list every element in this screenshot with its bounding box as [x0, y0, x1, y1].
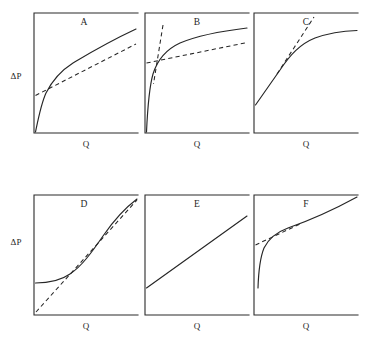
- six-panel-plot-figure: ΔP ΔP A Q B Q C Q D: [0, 0, 369, 352]
- plot-panel-d: D Q: [34, 195, 138, 331]
- panel-a-axes: [34, 13, 138, 133]
- panel-b-x-axis-label: Q: [194, 139, 201, 149]
- panel-f-axes: [254, 195, 358, 315]
- panel-d-dashed-lines: [36, 200, 137, 312]
- plot-panel-c: C Q: [254, 13, 358, 149]
- panel-c-x-axis-label: Q: [303, 139, 310, 149]
- panel-a-x-axis-label: Q: [83, 139, 90, 149]
- panel-a-curve: [36, 29, 137, 132]
- panel-b-dashed-line-2: [154, 25, 164, 84]
- panel-d-curve: [36, 199, 138, 283]
- panel-e-axes: [145, 195, 249, 315]
- panel-e-x-axis-label: Q: [194, 321, 201, 331]
- panel-d-dashed-line-1: [36, 200, 137, 312]
- panel-f-dashed-line-1: [256, 224, 301, 245]
- panel-f-curve: [258, 197, 357, 288]
- panel-c-letter: C: [303, 17, 309, 27]
- panel-d-letter: D: [81, 199, 88, 209]
- panel-e-letter: E: [194, 199, 200, 209]
- panel-d-x-axis-label: Q: [83, 321, 90, 331]
- plot-panel-e: E Q: [145, 195, 249, 331]
- panel-f-letter: F: [303, 199, 308, 209]
- panel-f-x-axis-label: Q: [303, 321, 310, 331]
- panel-b-dashed-lines: [147, 25, 248, 84]
- figure-container: ΔP ΔP A Q B Q C Q D: [0, 0, 369, 352]
- panel-a-letter: A: [81, 17, 88, 27]
- plot-panel-a: A Q: [34, 13, 138, 149]
- panel-c-axes: [254, 13, 358, 133]
- panel-f-dashed-lines: [256, 224, 301, 245]
- panel-d-axes: [34, 195, 138, 315]
- panel-b-dashed-line-1: [147, 43, 248, 64]
- plot-panel-f: F Q: [254, 195, 358, 331]
- plot-panel-b: B Q: [145, 13, 249, 149]
- panel-b-letter: B: [194, 17, 200, 27]
- y-axis-label-bottom-row: ΔP: [11, 237, 22, 247]
- panel-c-curve: [256, 31, 358, 106]
- panel-e-curve: [147, 216, 248, 288]
- y-axis-label-top-row: ΔP: [11, 71, 22, 81]
- y-axis-label-group: ΔP ΔP: [11, 71, 22, 247]
- panel-a-dashed-line-1: [36, 44, 137, 96]
- panel-a-dashed-lines: [36, 44, 137, 96]
- panel-b-curve: [147, 28, 248, 132]
- panel-b-axes: [145, 13, 249, 133]
